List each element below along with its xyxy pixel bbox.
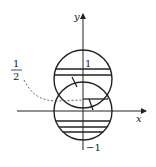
lower-hatch-lines [40,121,130,132]
radius-tick-lower [89,99,93,110]
tick-label-1: 1 [85,58,91,69]
radius-tick-upper [72,77,77,87]
upper-hatch-lines [40,69,130,75]
y-axis-label: y [73,11,80,22]
x-axis-label: x [136,113,142,124]
fraction-numerator: 1 [13,58,19,69]
two-circles-figure: y x 1 −1 1 2 [0,0,156,167]
fraction-denominator: 2 [13,71,19,82]
tick-label-minus-1: −1 [86,142,101,153]
diagram-canvas: y x 1 −1 1 2 [0,0,156,167]
